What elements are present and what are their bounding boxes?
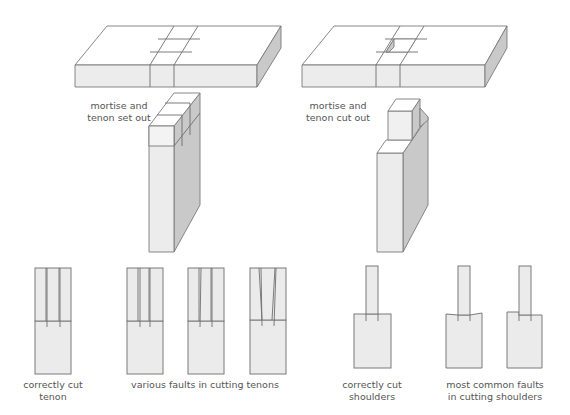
label-set-out-line2: tenon set out xyxy=(84,112,154,124)
left-stile-set-out xyxy=(149,93,200,252)
mortise-tenon-diagram xyxy=(0,0,570,415)
label-correct-shoulders-line1: correctly cut xyxy=(336,379,408,391)
label-cut-out-line2: tenon cut out xyxy=(300,112,376,124)
label-cut-out: mortise and tenon cut out xyxy=(300,100,376,124)
label-tenon-faults: various faults in cutting tenons xyxy=(120,379,290,391)
label-correct-tenon: correctly cut tenon xyxy=(18,379,88,403)
tenon-fault-3 xyxy=(250,268,286,374)
shoulder-fault-1 xyxy=(446,266,482,368)
right-stile-cut-out xyxy=(377,99,428,252)
label-shoulder-faults-line2: in cutting shoulders xyxy=(440,391,550,403)
right-board-cut-out xyxy=(302,26,507,87)
shoulder-correct xyxy=(354,266,391,368)
label-correct-tenon-line1: correctly cut xyxy=(18,379,88,391)
left-board-set-out xyxy=(75,26,281,87)
label-shoulder-faults: most common faults in cutting shoulders xyxy=(440,379,550,403)
label-set-out: mortise and tenon set out xyxy=(84,100,154,124)
tenon-fault-2 xyxy=(188,268,224,374)
label-correct-tenon-line2: tenon xyxy=(18,391,88,403)
tenon-fault-1 xyxy=(127,268,163,374)
label-tenon-faults-text: various faults in cutting tenons xyxy=(120,379,290,391)
label-correct-shoulders-line2: shoulders xyxy=(336,391,408,403)
shoulder-fault-2 xyxy=(507,266,542,368)
label-set-out-line1: mortise and xyxy=(84,100,154,112)
label-cut-out-line1: mortise and xyxy=(300,100,376,112)
label-correct-shoulders: correctly cut shoulders xyxy=(336,379,408,403)
tenon-correct xyxy=(35,268,71,374)
label-shoulder-faults-line1: most common faults xyxy=(440,379,550,391)
